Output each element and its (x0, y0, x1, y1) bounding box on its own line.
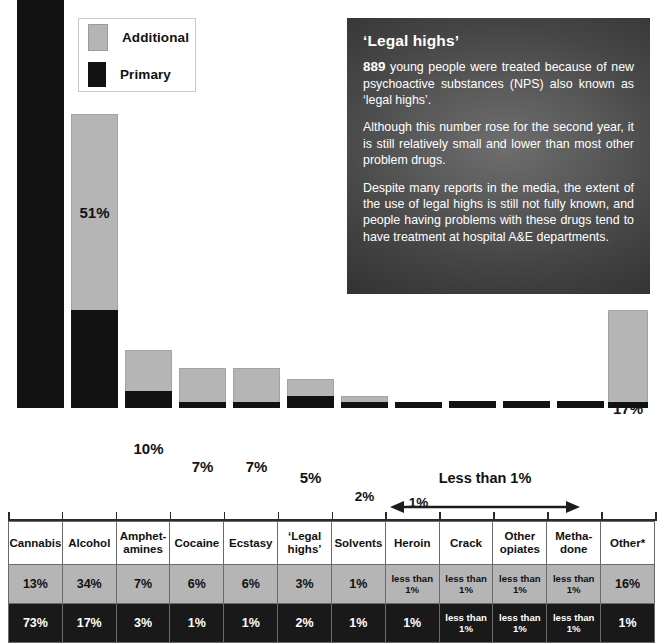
table-header-cell: Other* (601, 522, 655, 565)
table-cell-primary: less than1% (439, 604, 493, 643)
table-cell-primary: 1% (601, 604, 655, 643)
table-header-line: Crack (440, 537, 493, 550)
bar-segment-primary (233, 402, 280, 408)
bar-value-label: 5% (251, 469, 371, 486)
axis-tick (116, 512, 118, 521)
bar-other (608, 310, 648, 408)
table-header-line: Other* (601, 537, 654, 550)
axis-tick (547, 512, 549, 521)
table-header-line: amines (117, 543, 170, 556)
table-header-cell: Metha-done (547, 522, 601, 565)
table-row-additional: 13%34%7%6%6%3%1%less than1%less than1%le… (9, 565, 655, 604)
bar-amphetamines (125, 350, 172, 408)
legend-item-additional: Additional (79, 19, 195, 56)
table-cell-primary: less than1% (493, 604, 547, 643)
table-header-cell: Cannabis (9, 522, 63, 565)
chart-legend: Additional Primary (78, 18, 196, 92)
bar-segment-primary (449, 401, 496, 408)
bar-crack (449, 401, 496, 408)
bar-legal-highs (287, 379, 334, 408)
table-header-cell: Amphet-amines (116, 522, 170, 565)
axis-tick (8, 512, 10, 521)
table-cell-additional: less than1% (439, 565, 493, 604)
axis-tick (601, 512, 603, 521)
legend-label-additional: Additional (122, 30, 189, 45)
bar-value-label: 86% (0, 2, 101, 19)
table-header-line: Metha- (547, 530, 600, 543)
bar-alcohol (71, 114, 118, 408)
table-cell-additional: 6% (170, 565, 224, 604)
table-header-line: Ecstasy (224, 537, 277, 550)
less-than-label: Less than 1% (390, 470, 580, 486)
bar-segment-primary (71, 310, 118, 408)
table-cell-primary: 3% (116, 604, 170, 643)
info-panel-paragraph-1: 889 young people were treated because of… (363, 58, 634, 108)
table-header-cell: Alcohol (62, 522, 116, 565)
bar-solvents (341, 396, 388, 408)
bar-segment-primary (341, 402, 388, 408)
bar-value-label: 17% (568, 400, 662, 417)
table-header-line: Alcohol (63, 537, 116, 550)
table-header-line: Cocaine (170, 537, 223, 550)
table-cell-additional: 34% (62, 565, 116, 604)
table-cell-additional: 3% (278, 565, 332, 604)
table-header-cell: Solvents (331, 522, 385, 565)
table-cell-additional: 1% (331, 565, 385, 604)
table-cell-primary: 1% (331, 604, 385, 643)
table-cell-primary: 1% (170, 604, 224, 643)
bar-segment-primary (179, 402, 226, 408)
table-header-line: opiates (493, 543, 546, 556)
info-panel-paragraph-3: Despite many reports in the media, the e… (363, 180, 634, 246)
square-swatch-icon (88, 24, 108, 51)
less-than-one-percent-annotation: Less than 1% (390, 470, 580, 518)
bar-value-label: 51% (35, 204, 155, 221)
table-header-line: Heroin (386, 537, 439, 550)
table-cell-additional: 13% (9, 565, 63, 604)
table-header-line: done (547, 543, 600, 556)
square-swatch-icon (88, 62, 106, 87)
axis-tick (439, 512, 441, 521)
drug-treatment-table: CannabisAlcoholAmphet-aminesCocaineEcsta… (8, 521, 655, 643)
table-header-cell: Otheropiates (493, 522, 547, 565)
axis-tick (170, 512, 172, 521)
table-header-line: Cannabis (9, 537, 62, 550)
bar-other-opiates (503, 401, 550, 408)
table-header-line: Other (493, 530, 546, 543)
table-cell-additional: less than1% (547, 565, 601, 604)
info-panel-paragraph-1-rest: young people were treated because of new… (363, 60, 634, 107)
axis-tick (385, 512, 387, 521)
table-cell-primary: 1% (385, 604, 439, 643)
table-cell-additional: less than1% (385, 565, 439, 604)
bar-segment-primary (125, 391, 172, 408)
table-header-cell: Heroin (385, 522, 439, 565)
legal-highs-info-panel: ‘Legal highs’ 889 young people were trea… (347, 18, 650, 294)
table-cell-additional: 7% (116, 565, 170, 604)
table-cell-primary: 2% (278, 604, 332, 643)
bar-segment-primary (395, 402, 442, 408)
axis-tick (493, 512, 495, 521)
table-header-line: Amphet- (117, 530, 170, 543)
table-header-line: ‘Legal (278, 530, 331, 543)
table-cell-primary: 17% (62, 604, 116, 643)
table-cell-additional: 6% (224, 565, 278, 604)
bar-segment-primary (503, 401, 550, 408)
axis-tick (62, 512, 64, 521)
legend-item-primary: Primary (79, 56, 195, 93)
info-panel-paragraph-2: Although this number rose for the second… (363, 119, 634, 168)
axis-tick (278, 512, 280, 521)
bar-ecstasy (233, 368, 280, 408)
table-header-cell: Cocaine (170, 522, 224, 565)
legend-label-primary: Primary (120, 67, 171, 82)
table-header-row: CannabisAlcoholAmphet-aminesCocaineEcsta… (9, 522, 655, 565)
table-header-cell: Crack (439, 522, 493, 565)
bar-cocaine (179, 368, 226, 408)
axis-tick (224, 512, 226, 521)
axis-tick (655, 512, 657, 521)
table-header-cell: ‘Legalhighs’ (278, 522, 332, 565)
table-row-primary: 73%17%3%1%1%2%1%1%less than1%less than1%… (9, 604, 655, 643)
info-panel-stat: 889 (363, 59, 385, 74)
double-arrow-icon (390, 500, 580, 514)
bar-segment-additional (608, 310, 648, 408)
table-header-cell: Ecstasy (224, 522, 278, 565)
